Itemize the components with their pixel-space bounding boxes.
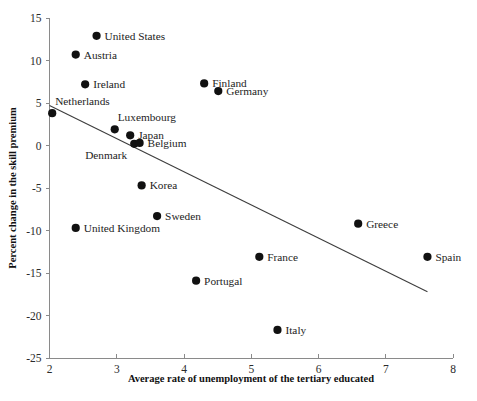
y-tick-group: 151050-5-10-15-20-25 bbox=[26, 12, 49, 364]
x-tick-label: 2 bbox=[47, 363, 53, 375]
data-point: France bbox=[255, 251, 298, 263]
point-label: Sweden bbox=[165, 210, 201, 222]
point-label: Netherlands bbox=[55, 95, 110, 107]
point-marker bbox=[72, 50, 80, 58]
point-label: Spain bbox=[435, 251, 461, 263]
x-tick-label: 7 bbox=[383, 363, 389, 375]
point-marker bbox=[92, 32, 100, 40]
x-tick-group: 2345678 bbox=[47, 354, 457, 375]
data-point: Italy bbox=[273, 324, 306, 336]
data-point: Korea bbox=[138, 179, 178, 191]
point-marker bbox=[423, 253, 431, 261]
point-marker bbox=[214, 87, 222, 95]
x-tick-label: 3 bbox=[114, 363, 120, 375]
point-marker bbox=[136, 139, 144, 147]
point-marker bbox=[200, 79, 208, 87]
point-marker bbox=[273, 326, 281, 334]
point-label: Korea bbox=[150, 179, 178, 191]
point-label: Italy bbox=[285, 324, 306, 336]
point-marker bbox=[255, 253, 263, 261]
x-axis-title: Average rate of unemployment of the tert… bbox=[128, 373, 374, 384]
y-tick-label: 10 bbox=[30, 55, 42, 67]
y-tick-label: 5 bbox=[36, 97, 42, 109]
point-label: Germany bbox=[226, 85, 268, 97]
point-label: Denmark bbox=[85, 149, 127, 161]
y-tick-label: -15 bbox=[26, 267, 42, 279]
scatter-chart: 151050-5-10-15-20-25 2345678 United Stat… bbox=[0, 0, 477, 401]
point-marker bbox=[48, 109, 56, 117]
y-tick-label: -25 bbox=[26, 352, 42, 364]
trend-line bbox=[50, 106, 428, 292]
data-point: Spain bbox=[423, 251, 461, 263]
point-marker bbox=[153, 212, 161, 220]
axes-group bbox=[50, 18, 454, 359]
trendline-group bbox=[50, 106, 428, 292]
point-label: Austria bbox=[84, 49, 117, 61]
data-point: Sweden bbox=[153, 210, 201, 222]
data-point: Austria bbox=[72, 49, 117, 61]
data-point: Portugal bbox=[192, 275, 242, 287]
y-axis-title: Percent change in the skill premium bbox=[7, 107, 18, 269]
x-tick-label: 8 bbox=[450, 363, 456, 375]
data-point: Denmark bbox=[85, 140, 138, 161]
plot-area: 151050-5-10-15-20-25 2345678 United Stat… bbox=[0, 0, 477, 401]
point-marker bbox=[126, 131, 134, 139]
point-label: Portugal bbox=[204, 275, 242, 287]
y-tick-label: 15 bbox=[30, 12, 42, 24]
data-point: United States bbox=[92, 30, 165, 42]
data-point: Greece bbox=[354, 218, 398, 230]
point-label: Ireland bbox=[93, 78, 125, 90]
point-marker bbox=[354, 220, 362, 228]
point-label: Belgium bbox=[148, 137, 187, 149]
point-marker bbox=[192, 277, 200, 285]
point-label: United States bbox=[105, 30, 166, 42]
point-label: United Kingdom bbox=[84, 222, 160, 234]
point-label: Greece bbox=[366, 218, 398, 230]
point-marker bbox=[111, 125, 119, 133]
y-tick-label: -10 bbox=[26, 225, 42, 237]
y-tick-label: -5 bbox=[32, 182, 42, 194]
point-label: Luxembourg bbox=[118, 111, 177, 123]
data-points-group: United StatesAustriaIrelandNetherlandsFi… bbox=[48, 30, 461, 336]
point-marker bbox=[72, 224, 80, 232]
point-marker bbox=[138, 181, 146, 189]
data-point: United Kingdom bbox=[72, 222, 161, 234]
point-marker bbox=[81, 80, 89, 88]
data-point: Ireland bbox=[81, 78, 125, 90]
data-point: Netherlands bbox=[48, 95, 110, 117]
point-label: France bbox=[267, 251, 298, 263]
y-tick-label: 0 bbox=[36, 140, 42, 152]
y-tick-label: -20 bbox=[26, 310, 42, 322]
